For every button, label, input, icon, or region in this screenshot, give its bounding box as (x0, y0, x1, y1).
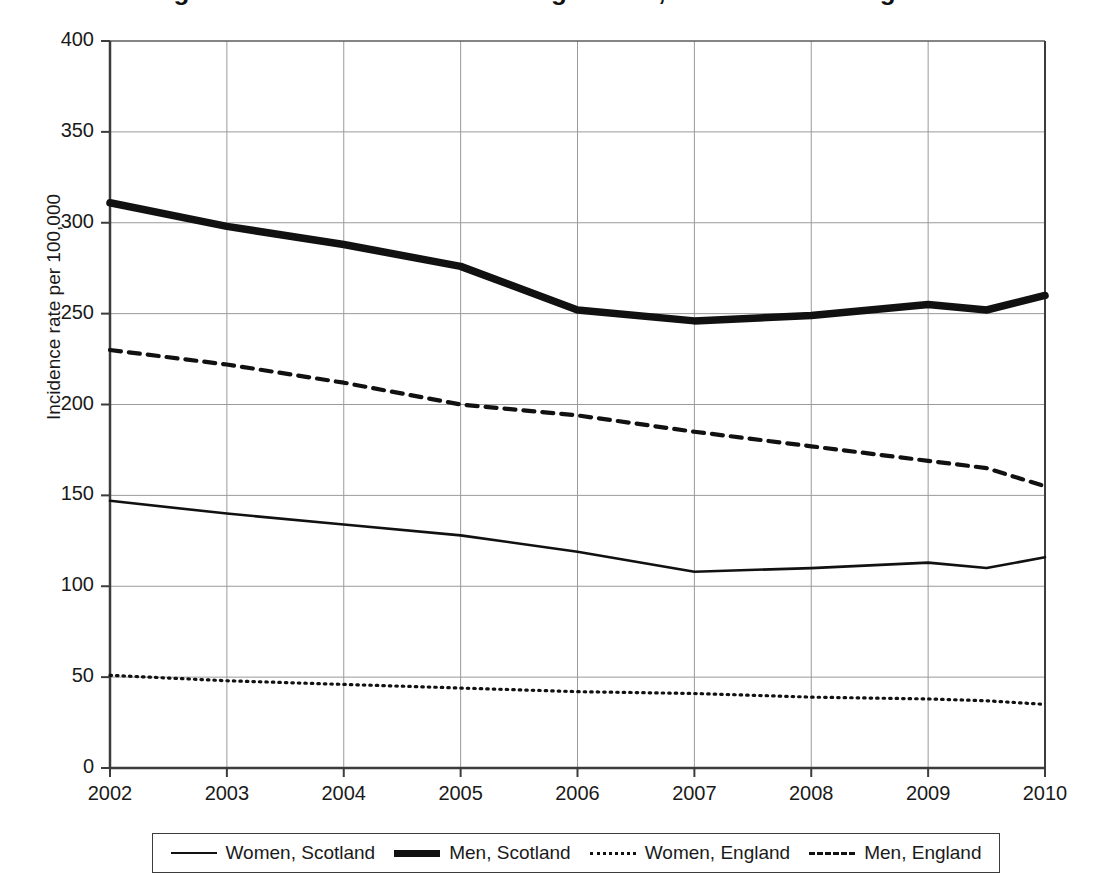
y-tick-label: 50 (28, 664, 94, 687)
legend-item[interactable]: Men, Scotland (394, 842, 570, 864)
y-tick-label: 100 (28, 573, 94, 596)
legend-item-label: Women, England (645, 842, 790, 864)
y-tick-label: 300 (28, 210, 94, 233)
legend-swatch-dotted-icon (590, 846, 636, 860)
y-tick-label: 350 (28, 119, 94, 142)
x-tick-label: 2007 (649, 782, 739, 805)
legend-swatch-dashed-icon (809, 846, 855, 860)
chart-legend: Women, ScotlandMen, ScotlandWomen, Engla… (152, 833, 1000, 873)
x-tick-label: 2003 (182, 782, 272, 805)
x-tick-label: 2008 (766, 782, 856, 805)
legend-item-label: Men, Scotland (449, 842, 570, 864)
y-tick-label: 0 (28, 755, 94, 778)
x-tick-label: 2009 (883, 782, 973, 805)
legend-item[interactable]: Men, England (809, 842, 981, 864)
x-tick-label: 2010 (1000, 782, 1090, 805)
line-chart (0, 0, 1097, 896)
y-tick-label: 400 (28, 28, 94, 51)
x-tick-label: 2006 (533, 782, 623, 805)
y-tick-label: 150 (28, 482, 94, 505)
figure-container: Figure 1: Incidence rates for lung cance… (0, 0, 1097, 896)
x-tick-label: 2002 (65, 782, 155, 805)
y-tick-label: 200 (28, 392, 94, 415)
legend-swatch-solid-thin-icon (171, 846, 217, 860)
x-tick-label: 2004 (299, 782, 389, 805)
legend-item-label: Men, England (864, 842, 981, 864)
y-tick-label: 250 (28, 301, 94, 324)
x-tick-label: 2005 (416, 782, 506, 805)
legend-item-label: Women, Scotland (226, 842, 376, 864)
legend-item[interactable]: Women, Scotland (171, 842, 376, 864)
legend-swatch-solid-thick-icon (394, 846, 440, 860)
legend-item[interactable]: Women, England (590, 842, 790, 864)
